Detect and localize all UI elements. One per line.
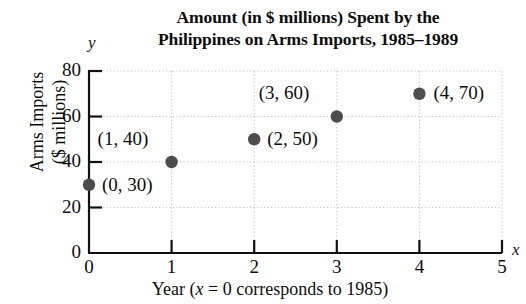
chart-figure: Amount (in $ millions) Spent by the Phil… <box>0 0 526 304</box>
y-tick-label: 80 <box>47 59 81 81</box>
data-point-label: (3, 60) <box>259 82 310 104</box>
data-point <box>413 88 425 100</box>
y-tick-label: 0 <box>47 241 81 263</box>
x-tick-label: 4 <box>407 256 431 278</box>
x-tick-label: 2 <box>242 256 266 278</box>
data-point-label: (2, 50) <box>267 128 318 150</box>
data-point <box>83 179 95 191</box>
x-tick-label: 0 <box>77 256 101 278</box>
data-point <box>331 110 343 122</box>
y-tick-label: 60 <box>47 105 81 127</box>
data-point-label: (1, 40) <box>98 128 149 150</box>
x-tick-label: 3 <box>325 256 349 278</box>
data-point-label: (0, 30) <box>102 174 153 196</box>
x-tick-label: 5 <box>490 256 514 278</box>
data-point-label: (4, 70) <box>433 82 484 104</box>
y-tick-label: 40 <box>47 150 81 172</box>
data-point <box>165 156 177 168</box>
data-point <box>248 133 260 145</box>
x-tick-label: 1 <box>160 256 184 278</box>
y-tick-label: 20 <box>47 196 81 218</box>
